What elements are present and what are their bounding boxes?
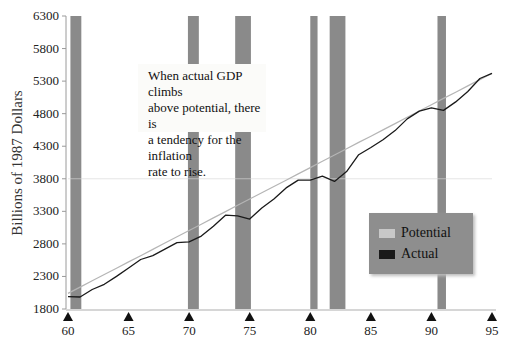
y-tick-label: 5800 xyxy=(33,41,59,56)
triangle-marker-icon xyxy=(245,312,255,321)
y-axis-title: Billions of 1987 Dollars xyxy=(9,90,25,236)
annotation-line: When actual GDP climbs xyxy=(148,68,266,100)
y-tick-label: 3300 xyxy=(33,203,59,218)
y-tick-label: 5300 xyxy=(33,73,59,88)
legend-label: Potential xyxy=(401,225,451,241)
x-tick-label: 95 xyxy=(486,323,499,338)
y-tick-label: 2300 xyxy=(33,268,59,283)
y-tick-label: 6300 xyxy=(33,8,59,23)
legend: Potential Actual xyxy=(369,213,473,274)
potential-swatch-icon xyxy=(379,229,395,238)
triangle-marker-icon xyxy=(184,312,194,321)
annotation-box: When actual GDP climbs above potential, … xyxy=(138,64,266,132)
triangle-marker-icon xyxy=(124,312,134,321)
annotation-line: above potential, there is xyxy=(148,100,266,132)
legend-item-actual: Actual xyxy=(379,246,438,262)
triangle-marker-icon xyxy=(63,312,73,321)
triangle-marker-icon xyxy=(426,312,436,321)
y-tick-label: 4800 xyxy=(33,106,59,121)
x-tick-label: 75 xyxy=(243,323,256,338)
x-tick-label: 80 xyxy=(304,323,317,338)
triangle-marker-icon xyxy=(366,312,376,321)
annotation-line: a tendency for the inflation xyxy=(148,132,266,164)
triangle-marker-icon xyxy=(487,312,497,321)
x-tick-label: 70 xyxy=(183,323,196,338)
legend-item-potential: Potential xyxy=(379,225,451,241)
legend-label: Actual xyxy=(401,246,438,262)
y-tick-label: 1800 xyxy=(33,301,59,316)
recession-bar xyxy=(70,16,81,309)
annotation-line: rate to rise. xyxy=(148,164,266,180)
y-tick-label: 3800 xyxy=(33,171,59,186)
actual-swatch-icon xyxy=(379,250,395,259)
x-tick-label: 60 xyxy=(62,323,75,338)
y-tick-label: 2800 xyxy=(33,236,59,251)
x-tick-label: 85 xyxy=(364,323,377,338)
y-tick-label: 4300 xyxy=(33,138,59,153)
x-tick-label: 90 xyxy=(425,323,438,338)
triangle-marker-icon xyxy=(305,312,315,321)
recession-bar xyxy=(330,16,346,309)
recession-bar xyxy=(310,16,317,309)
x-tick-label: 65 xyxy=(122,323,135,338)
